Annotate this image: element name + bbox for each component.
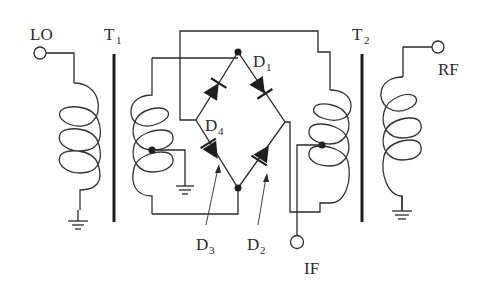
t1-label: T 1 [104, 25, 122, 46]
ground-icon-t1 [176, 186, 194, 194]
diode-d1 [249, 76, 273, 99]
svg-text:2: 2 [364, 34, 370, 46]
ground-icon-lo [68, 210, 88, 229]
d3-label: D 3 [196, 235, 215, 256]
lo-terminal[interactable] [34, 47, 46, 59]
d4-label: D 4 [205, 116, 224, 137]
t2-label: T 2 [352, 25, 370, 46]
svg-text:1: 1 [116, 34, 122, 46]
t2-primary-coil [381, 77, 421, 210]
svg-text:4: 4 [218, 125, 224, 137]
d3-pointer [206, 164, 221, 225]
if-terminal[interactable] [291, 236, 304, 249]
rf-lead-wire [403, 47, 432, 77]
ring-right-to-t2-bottom-wire [285, 122, 330, 212]
svg-text:1: 1 [266, 61, 272, 73]
svg-text:2: 2 [260, 244, 266, 256]
t1-secondary-coil [131, 58, 173, 214]
svg-text:D: D [247, 235, 259, 254]
diode-d4 [203, 78, 227, 101]
svg-text:D: D [253, 52, 265, 71]
svg-text:T: T [352, 25, 363, 44]
d1-label: D 1 [253, 52, 272, 73]
d2-pointer [258, 173, 269, 225]
mixer-schematic: LO T 1 D 1 [0, 0, 487, 289]
t1-primary-coil [59, 83, 100, 210]
rf-terminal[interactable] [432, 41, 444, 53]
svg-text:D: D [196, 235, 208, 254]
t1-bottom-to-ring-bottom-wire [152, 188, 238, 214]
svg-text:D: D [205, 116, 217, 135]
lo-port: LO [30, 25, 53, 59]
diode-d3 [201, 139, 226, 164]
d2-label: D 2 [247, 235, 266, 256]
if-label: IF [304, 259, 319, 278]
ring-top-node [235, 49, 242, 56]
rf-label: RF [438, 60, 459, 79]
t2-secondary-coil [309, 90, 351, 203]
lo-label: LO [30, 25, 53, 44]
lo-lead-wire [46, 53, 74, 83]
svg-text:T: T [104, 25, 115, 44]
diode-d2 [252, 141, 277, 166]
ring-left-to-t2-top-wire [180, 31, 330, 120]
ring-bottom-node [235, 185, 242, 192]
ground-icon-rf [392, 196, 412, 219]
svg-text:3: 3 [209, 244, 215, 256]
